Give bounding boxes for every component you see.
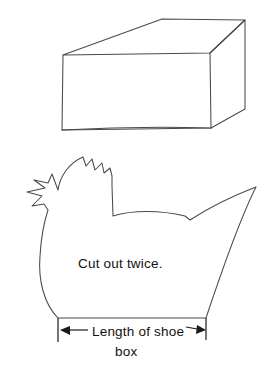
hen-outline [27, 157, 256, 318]
shoe-box-drawing [62, 19, 245, 130]
hen-caption-text: Cut out twice. [78, 256, 163, 271]
figure-canvas: Cut out twice. Length of shoe box [0, 0, 270, 373]
dimension-label-line-1: Length of shoe [92, 324, 184, 339]
box-top-face [63, 19, 245, 55]
box-right-face [210, 20, 245, 128]
hen-pattern-drawing [27, 157, 256, 318]
box-front-face [62, 53, 211, 130]
dimension-right-arrowhead [196, 325, 206, 334]
dimension-left-arrowhead [60, 326, 70, 335]
craft-diagram-figure: Cut out twice. Length of shoe box [0, 0, 270, 373]
dimension-label-line-2: box [115, 344, 137, 359]
